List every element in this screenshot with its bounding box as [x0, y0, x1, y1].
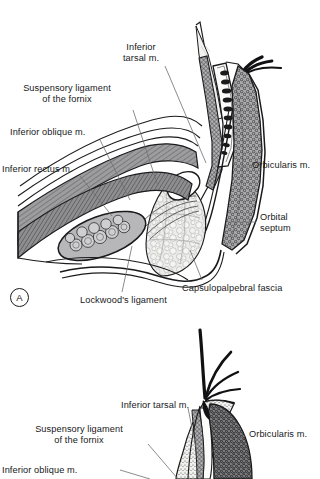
label-inferior-tarsal-muscle-b: Inferior tarsal m. [121, 400, 189, 411]
label-capsulopalpebral-fascia: Capsulopalpebral fascia [182, 283, 282, 294]
label-inferior-oblique-muscle-b: Inferior oblique m. [2, 465, 77, 476]
label-suspensory-ligament-fornix-b: Suspensory ligament of the fornix [12, 424, 146, 446]
label-inferior-oblique-muscle: Inferior oblique m. [10, 127, 85, 138]
label-lockwoods-ligament: Lockwood's ligament [80, 295, 167, 306]
panel-marker-a: A [10, 288, 29, 307]
label-suspensory-ligament-fornix: Suspensory ligament of the fornix [0, 83, 134, 105]
label-orbital-septum: Orbital septum [260, 212, 291, 234]
label-inferior-rectus-muscle: Inferior rectus m. [2, 164, 73, 175]
label-orbicularis-muscle-b: Orbicularis m. [249, 429, 307, 440]
anatomical-figure: Inferior tarsal m. Suspensory ligament o… [0, 0, 320, 479]
label-orbicularis-muscle: Orbicularis m. [252, 160, 310, 171]
label-inferior-tarsal-muscle: Inferior tarsal m. [100, 42, 182, 64]
